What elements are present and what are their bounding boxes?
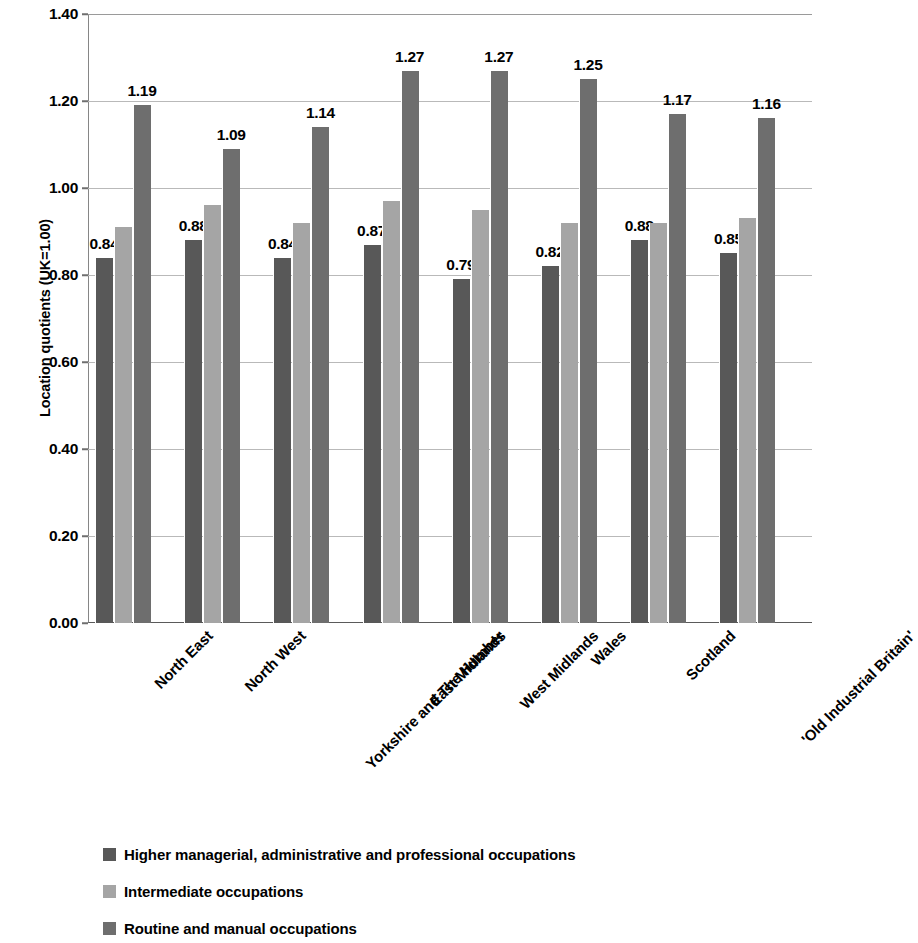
bar[interactable] <box>292 223 310 623</box>
x-axis-category-label: West Midlands <box>516 627 601 712</box>
bar[interactable] <box>452 279 470 623</box>
bar-group: 0.881.17 <box>630 14 686 623</box>
bar[interactable] <box>133 105 151 623</box>
bar[interactable] <box>738 218 756 623</box>
legend-item[interactable]: Higher managerial, administrative and pr… <box>103 838 803 870</box>
bar-value-label: 1.25 <box>565 56 611 74</box>
bar-value-label: 1.27 <box>387 48 433 66</box>
bar[interactable] <box>560 223 578 623</box>
bar-group: 0.821.25 <box>541 14 597 623</box>
bar[interactable] <box>541 266 559 623</box>
y-axis-tick-label: 1.20 <box>0 92 78 110</box>
bar[interactable] <box>363 245 381 623</box>
bar[interactable] <box>630 240 648 623</box>
y-axis-tick-label: 1.00 <box>0 179 78 197</box>
legend-label: Intermediate occupations <box>124 883 303 900</box>
bar-group: 0.851.16 <box>719 14 775 623</box>
bar[interactable] <box>222 149 240 623</box>
bar[interactable] <box>668 114 686 623</box>
y-axis-tick-label: 1.40 <box>0 5 78 23</box>
bar[interactable] <box>273 258 291 623</box>
legend-item[interactable]: Intermediate occupations <box>103 875 803 907</box>
bar[interactable] <box>471 210 489 623</box>
legend-swatch-icon <box>103 848 116 861</box>
bar[interactable] <box>184 240 202 623</box>
legend-swatch-icon <box>103 922 116 935</box>
y-axis-tick-label: 0.40 <box>0 440 78 458</box>
bar[interactable] <box>95 258 113 623</box>
bar[interactable] <box>311 127 329 623</box>
bar-group: 0.791.27 <box>452 14 508 623</box>
bar-group: 0.841.19 <box>95 14 151 623</box>
bar[interactable] <box>579 79 597 623</box>
legend-item[interactable]: Routine and manual occupations <box>103 912 803 943</box>
legend-label: Routine and manual occupations <box>124 920 357 937</box>
chart-legend: Higher managerial, administrative and pr… <box>103 838 803 943</box>
bar[interactable] <box>114 227 132 623</box>
bar-group: 0.841.14 <box>273 14 329 623</box>
y-axis-tick-label: 0.20 <box>0 527 78 545</box>
bar-value-label: 1.17 <box>654 91 700 109</box>
bar-value-label: 1.14 <box>297 104 343 122</box>
bar-value-label: 1.09 <box>208 126 254 144</box>
y-axis-tick-label: 0.00 <box>0 614 78 632</box>
bar-value-label: 1.27 <box>476 48 522 66</box>
bar[interactable] <box>401 71 419 623</box>
x-axis-category-label: North East <box>151 627 216 692</box>
bar-value-label: 1.19 <box>119 82 165 100</box>
x-axis-category-label: Scotland <box>683 627 739 683</box>
bar[interactable] <box>382 201 400 623</box>
y-axis-tick-label: 0.60 <box>0 353 78 371</box>
bar[interactable] <box>490 71 508 623</box>
bar[interactable] <box>649 223 667 623</box>
bar[interactable] <box>719 253 737 623</box>
legend-label: Higher managerial, administrative and pr… <box>124 846 575 863</box>
plot-area: 0.841.190.881.090.841.140.871.270.791.27… <box>88 14 812 623</box>
bar-group: 0.881.09 <box>184 14 240 623</box>
x-axis-category-label: North West <box>241 627 309 695</box>
x-axis-category-labels: North EastNorth WestYorkshire and The Hu… <box>88 627 812 827</box>
bar-value-label: 1.16 <box>743 95 789 113</box>
x-axis-category-label: East Midlands <box>426 627 508 709</box>
bar[interactable] <box>203 205 221 623</box>
bar[interactable] <box>757 118 775 623</box>
legend-swatch-icon <box>103 885 116 898</box>
bar-group: 0.871.27 <box>363 14 419 623</box>
y-axis-tick-label: 0.80 <box>0 266 78 284</box>
